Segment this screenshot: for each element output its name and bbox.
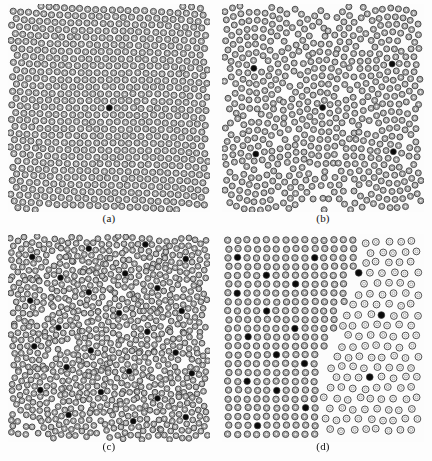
- panel-a: (a): [8, 4, 210, 212]
- panel-c-label: (c): [8, 440, 210, 452]
- panel-d: (d): [222, 234, 424, 442]
- panel-b: (b): [222, 4, 424, 212]
- panel-c-particle-plot: [8, 234, 210, 442]
- panel-b-label: (b): [222, 212, 424, 224]
- panel-d-particle-plot: [222, 234, 424, 442]
- panel-b-particle-plot: [222, 4, 424, 212]
- panel-a-particle-plot: [8, 4, 210, 212]
- figure-container: (a) (b) (c) (d): [0, 0, 432, 461]
- panel-a-label: (a): [8, 212, 210, 224]
- panel-d-label: (d): [222, 440, 424, 452]
- panel-c: (c): [8, 234, 210, 442]
